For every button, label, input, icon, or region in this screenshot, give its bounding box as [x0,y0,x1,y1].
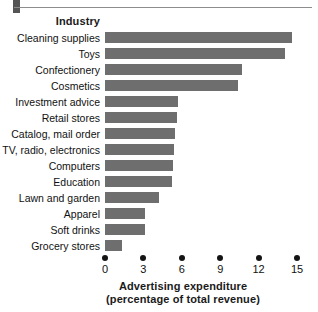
value-axis-title-line1: Advertising expenditure [119,280,247,292]
bar-category-label: Cleaning supplies [0,32,100,44]
bar-row: Toys [0,47,318,63]
bar-row: Grocery stores [0,239,318,255]
bar [105,224,145,235]
value-axis: 03691215 [0,255,318,281]
tick-dot-icon [217,255,223,261]
bar-track [105,48,285,59]
bar-category-label: Apparel [0,208,100,220]
value-axis-tick-label: 0 [91,263,119,275]
bar-track [105,128,175,139]
bar [105,144,174,155]
value-axis-title-line2: (percentage of total revenue) [48,293,318,306]
value-axis-title: Advertising expenditure (percentage of t… [48,280,318,306]
bar-row: Retail stores [0,111,318,127]
bar-row: Education [0,175,318,191]
bar [105,160,173,171]
tick-dot-icon [256,255,262,261]
bar [105,96,178,107]
bar-row: Catalog, mail order [0,127,318,143]
bar [105,64,242,75]
bar-track [105,160,173,171]
tick-dot-icon [140,255,146,261]
bar-track [105,96,178,107]
bar-category-label: Catalog, mail order [0,128,100,140]
bar [105,240,122,251]
value-axis-tick-label: 9 [206,263,234,275]
bar-row: Cleaning supplies [0,31,318,47]
bar-track [105,32,292,43]
bar-track [105,208,145,219]
bar-category-label: Soft drinks [0,224,100,236]
bar-row: Lawn and garden [0,191,318,207]
bar [105,112,177,123]
bar-category-label: Retail stores [0,112,100,124]
bar-track [105,224,145,235]
bar [105,48,285,59]
bar-row: Investment advice [0,95,318,111]
tick-dot-icon [294,255,300,261]
bar-category-label: Investment advice [0,96,100,108]
bar [105,208,145,219]
top-rule [0,0,318,14]
bar-row: Apparel [0,207,318,223]
bar-chart: Industry Cleaning suppliesToysConfection… [0,0,318,312]
bar-row: Computers [0,159,318,175]
bar-category-label: Confectionery [0,64,100,76]
bar [105,80,238,91]
plot-area: Cleaning suppliesToysConfectioneryCosmet… [0,31,318,255]
value-axis-tick-label: 12 [245,263,273,275]
bar-row: Soft drinks [0,223,318,239]
value-axis-tick-label: 3 [129,263,157,275]
bar-category-label: Education [0,176,100,188]
bar-row: Cosmetics [0,79,318,95]
bar-category-label: TV, radio, electronics [0,144,100,156]
bar-category-label: Computers [0,160,100,172]
bar-track [105,112,177,123]
horizontal-rule [14,7,312,8]
bar-category-label: Toys [0,48,100,60]
bar [105,176,172,187]
bar-track [105,144,174,155]
bar-category-label: Lawn and garden [0,192,100,204]
bar [105,128,175,139]
bar-category-label: Cosmetics [0,80,100,92]
bar [105,192,159,203]
value-axis-tick-label: 15 [283,263,311,275]
category-axis-title: Industry [0,15,100,27]
bar [105,32,292,43]
bar-category-label: Grocery stores [0,240,100,252]
bar-track [105,64,242,75]
bar-track [105,80,238,91]
bar-row: Confectionery [0,63,318,79]
bar-track [105,192,159,203]
tick-dot-icon [102,255,108,261]
bar-row: TV, radio, electronics [0,143,318,159]
bar-track [105,240,122,251]
value-axis-tick-label: 6 [168,263,196,275]
tick-dot-icon [179,255,185,261]
bar-track [105,176,172,187]
